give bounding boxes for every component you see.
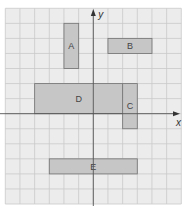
x-axis-label: x (175, 117, 182, 128)
rectangle-a: A (64, 23, 79, 68)
rectangle-label: C (127, 101, 134, 111)
rectangle-label: D (75, 94, 82, 104)
rectangle-label: B (127, 41, 133, 51)
rectangle-d: D (35, 84, 123, 114)
rectangle-c: C (123, 84, 138, 129)
rectangle-label: A (68, 41, 74, 51)
coordinate-grid-diagram: ABDCE x y (0, 0, 187, 211)
y-axis-label: y (97, 9, 104, 20)
rectangle-b: B (108, 38, 152, 53)
